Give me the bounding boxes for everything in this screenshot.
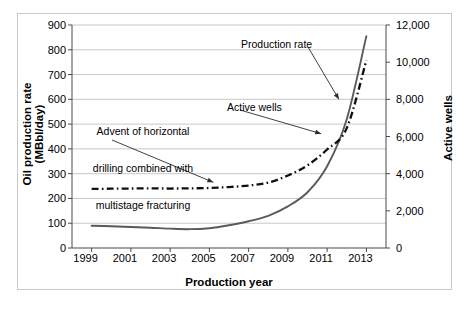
production-rate-label: Production rate <box>241 38 312 50</box>
x-tick-label: 2011 <box>299 252 343 264</box>
x-tick-label: 2003 <box>142 252 186 264</box>
x-axis-title: Production year <box>169 276 289 288</box>
y-tick-label: 600 <box>22 93 66 105</box>
y-tick-label: 900 <box>22 19 66 31</box>
y-tick-label: 500 <box>22 118 66 130</box>
y-tick-label: 700 <box>22 69 66 81</box>
chart-figure: Oil production rate (MBbl/day) Active we… <box>0 0 468 313</box>
advent-annotation-line2: drilling combined with <box>79 162 207 174</box>
y2-tick-label: 6,000 <box>396 131 450 143</box>
y-axis-tick-marks <box>68 25 72 248</box>
advent-annotation-line3: multistage fracturing <box>79 199 207 211</box>
x-tick-label: 2007 <box>221 252 265 264</box>
x-tick-label: 2001 <box>103 252 147 264</box>
x-tick-label: 2005 <box>181 252 225 264</box>
y2-tick-label: 12,000 <box>396 19 450 31</box>
x-tick-label: 2013 <box>338 252 382 264</box>
y2-tick-label: 4,000 <box>396 168 450 180</box>
y2-tick-label: 8,000 <box>396 93 450 105</box>
y-tick-label: 200 <box>22 192 66 204</box>
chart-plot-area <box>0 0 468 313</box>
y-tick-label: 400 <box>22 143 66 155</box>
x-tick-label: 2009 <box>260 252 304 264</box>
x-tick-label: 1999 <box>64 252 108 264</box>
y2-axis-tick-marks <box>386 25 390 248</box>
y-tick-label: 800 <box>22 44 66 56</box>
y2-axis-title: Active wells <box>442 48 454 208</box>
y-tick-label: 300 <box>22 168 66 180</box>
y-tick-label: 0 <box>22 242 66 254</box>
advent-annotation-line1: Advent of horizontal <box>79 125 207 137</box>
y2-tick-label: 2,000 <box>396 205 450 217</box>
advent-annotation: Advent of horizontal drilling combined w… <box>79 100 207 236</box>
y2-tick-label: 10,000 <box>396 56 450 68</box>
y2-tick-label: 0 <box>396 242 450 254</box>
active-wells-label: Active wells <box>227 101 282 113</box>
y-tick-label: 100 <box>22 217 66 229</box>
